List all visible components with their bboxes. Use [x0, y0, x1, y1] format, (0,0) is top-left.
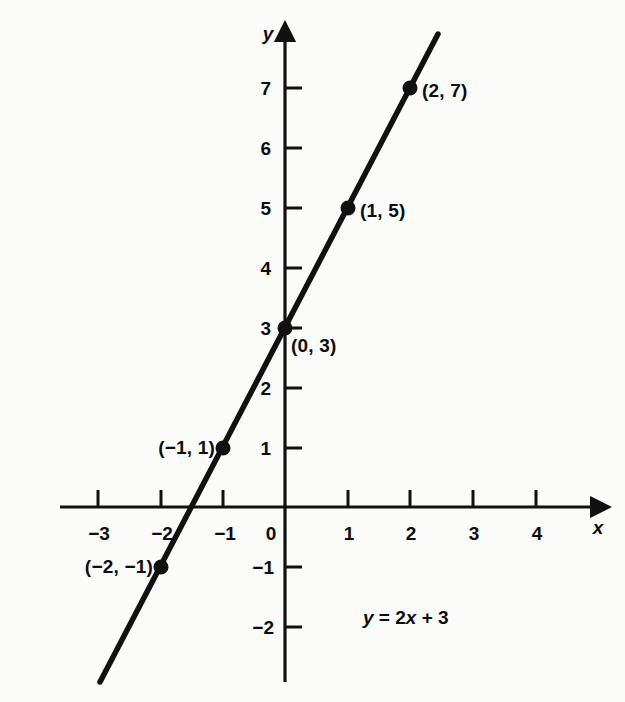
- y-tick-label-6: 6: [260, 139, 271, 158]
- equation-annotation: y = 2x + 3: [363, 608, 449, 627]
- equation-variable: x: [406, 607, 417, 628]
- point-label-0-3: (0, 3): [291, 336, 337, 355]
- y-tick-label-5: 5: [260, 199, 271, 218]
- data-point-0-3: [278, 321, 293, 336]
- equation-coefficient: 2: [395, 607, 406, 628]
- x-tick-label-0: 0: [266, 524, 277, 543]
- equation-lhs: y: [363, 607, 374, 628]
- x-tick-label-4: 4: [532, 524, 543, 543]
- y-axis-ticks: [285, 88, 302, 627]
- y-tick-label-1: 1: [260, 439, 271, 458]
- y-tick-label-minus2: −2: [252, 618, 274, 637]
- data-point-minus2-minus1: [154, 560, 169, 575]
- equation-plus: +: [422, 607, 433, 628]
- x-axis-label: x: [593, 518, 604, 537]
- equation-operator: =: [379, 607, 390, 628]
- x-tick-label-3: 3: [469, 524, 480, 543]
- y-tick-label-4: 4: [260, 259, 271, 278]
- y-tick-label-minus1: −1: [252, 558, 274, 577]
- y-axis-label: y: [263, 24, 274, 43]
- point-label-minus2-minus1: (−2, −1): [85, 557, 153, 576]
- y-tick-label-7: 7: [260, 79, 271, 98]
- x-tick-label-minus2: −2: [151, 524, 173, 543]
- point-label-minus1-1: (−1, 1): [158, 438, 215, 457]
- x-tick-label-minus1: −1: [214, 524, 236, 543]
- y-tick-label-3: 3: [260, 319, 271, 338]
- data-point-minus1-1: [216, 441, 231, 456]
- y-tick-label-2: 2: [260, 379, 271, 398]
- graph-figure: y x 7 6 5 4 3 2 1 −1 −2 −3 −2 −1 0 1 2 3…: [0, 0, 625, 702]
- x-tick-label-minus3: −3: [88, 524, 110, 543]
- data-point-2-7: [403, 81, 418, 96]
- point-label-2-7: (2, 7): [422, 81, 468, 100]
- point-label-1-5: (1, 5): [360, 201, 406, 220]
- data-point-1-5: [341, 201, 356, 216]
- x-axis-ticks: [98, 490, 536, 507]
- equation-constant: 3: [438, 607, 449, 628]
- x-tick-label-2: 2: [406, 524, 417, 543]
- x-tick-label-1: 1: [344, 524, 355, 543]
- line-series-y-equals-2x-plus-3: [100, 34, 438, 682]
